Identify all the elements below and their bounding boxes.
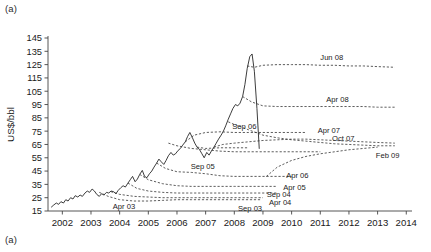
chart-svg: 1525354555657585951051151251351452002200… [0,18,431,234]
annotation-sep-05: Sep 05 [191,162,215,171]
x-tick-label: 2012 [338,217,359,228]
series-apr-06 [185,132,306,142]
y-tick-label: 145 [26,33,42,43]
figure-root: (a) 152535455565758595105115125135145200… [0,0,431,252]
series-feb-09 [266,147,377,176]
series-spot-price-actual- [51,54,259,207]
y-tick-label: 55 [32,153,42,163]
annotation-jun-08: Jun 08 [320,53,343,62]
y-tick-label: 95 [32,100,42,110]
y-tick-label: 125 [26,60,42,70]
series-sep-04 [140,174,278,186]
y-tick-label: 85 [32,113,42,123]
annotation-apr-03: Apr 03 [113,202,135,211]
y-tick-label: 75 [32,127,42,137]
annotation-sep-06: Sep 06 [232,122,256,131]
x-tick-label: 2014 [396,217,418,228]
x-tick-label: 2006 [166,217,187,228]
panel-label-top: (a) [5,3,17,14]
x-tick-label: 2010 [281,217,302,228]
annotation-apr-07: Apr 07 [318,126,340,135]
x-tick-label: 2007 [195,217,216,228]
x-tick-label: 2005 [138,217,159,228]
y-tick-label: 45 [32,166,42,176]
series-apr-08 [243,97,395,108]
series-jun-08 [247,65,395,68]
y-axis-title: US$/bbl [5,107,16,142]
x-tick-label: 2011 [310,217,331,228]
series-sep-03 [111,192,263,198]
panel-label-bottom: (a) [5,234,17,245]
series-apr-03 [99,192,260,201]
series-apr-05 [157,163,292,176]
oil-price-chart: 1525354555657585951051151251351452002200… [0,18,431,234]
series-apr-04 [128,183,277,193]
annotation-feb-09: Feb 09 [376,151,400,160]
x-tick-label: 2013 [367,217,388,228]
y-tick-label: 115 [27,73,42,83]
annotation-apr-06: Apr 06 [286,171,308,180]
series-sep-06 [197,147,249,148]
x-tick-label: 2009 [252,217,273,228]
y-tick-label: 65 [32,140,42,150]
annotation-apr-05: Apr 05 [283,183,305,192]
y-tick-label: 25 [32,193,42,203]
y-tick-label: 35 [32,180,42,190]
series-apr-07 [214,139,395,147]
series-sep-05 [168,143,320,152]
annotation-apr-08: Apr 08 [326,95,348,104]
y-tick-label: 105 [26,87,42,97]
y-tick-label: 135 [26,47,42,57]
x-tick-label: 2002 [52,217,73,228]
x-tick-label: 2008 [224,217,245,228]
annotation-oct-07: Oct 07 [332,134,354,143]
x-tick-label: 2003 [80,217,101,228]
annotation-sep-03: Sep 03 [238,204,262,213]
y-tick-label: 15 [32,206,42,216]
x-tick-label: 2004 [109,217,131,228]
